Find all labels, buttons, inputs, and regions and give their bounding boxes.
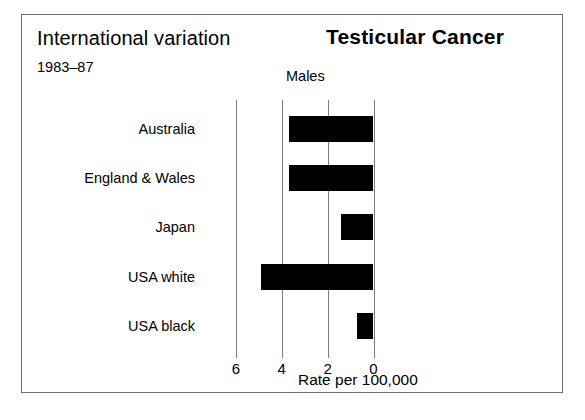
bar-row: USA black — [22, 313, 562, 362]
bar-usa-white — [261, 264, 373, 290]
category-label-japan: Japan — [15, 219, 195, 236]
bar-row: Australia — [22, 116, 562, 165]
bar-row: USA white — [22, 264, 562, 313]
bar-england-wales — [289, 165, 374, 191]
category-label-australia: Australia — [15, 121, 195, 138]
bar-japan — [341, 214, 373, 240]
plot-area: AustraliaEngland & WalesJapanUSA whiteUS… — [22, 15, 562, 392]
chart-frame: International variation 1983–87 Testicul… — [21, 14, 563, 393]
bar-australia — [289, 116, 374, 142]
category-label-england-wales: England & Wales — [15, 170, 195, 187]
bar-row: Japan — [22, 214, 562, 263]
x-axis-title: Rate per 100,000 — [298, 370, 418, 389]
x-tick-label-6: 6 — [224, 360, 248, 378]
category-label-usa-white: USA white — [15, 269, 195, 286]
bar-row: England & Wales — [22, 165, 562, 214]
category-label-usa-black: USA black — [15, 318, 195, 335]
x-tick-label-4: 4 — [270, 360, 294, 378]
bar-usa-black — [357, 313, 373, 339]
